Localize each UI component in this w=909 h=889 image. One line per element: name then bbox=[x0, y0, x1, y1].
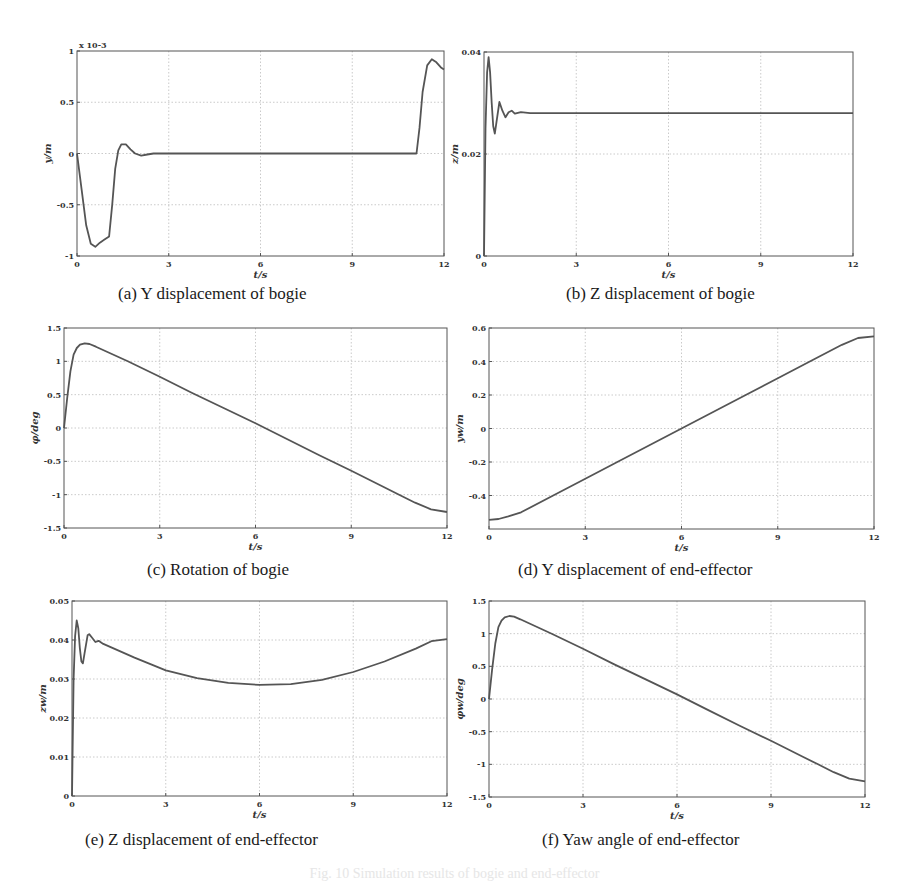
y-tick-label: 1.5 bbox=[472, 596, 486, 606]
caption-e: (e) Z displacement of end-effector bbox=[85, 830, 318, 850]
x-tick-label: 0 bbox=[486, 800, 492, 810]
y-tick-label: 0.5 bbox=[472, 661, 486, 671]
y-tick-label: -0.5 bbox=[469, 727, 486, 737]
y-tick-label: -1.5 bbox=[469, 792, 486, 802]
x-tick-label: 12 bbox=[859, 800, 870, 810]
y-tick-label: 0 bbox=[480, 694, 486, 704]
y-tick-label: -1 bbox=[477, 759, 486, 769]
caption-b: (b) Z displacement of bogie bbox=[566, 284, 755, 304]
x-tick-label: 6 bbox=[674, 800, 680, 810]
x-axis-label: t/s bbox=[670, 810, 684, 821]
caption-a: (a) Y displacement of bogie bbox=[118, 284, 307, 304]
x-tick-label: 3 bbox=[580, 800, 586, 810]
figure-caption: Fig. 10 Simulation results of bogie and … bbox=[0, 866, 909, 882]
y-axis-label: φw/deg bbox=[454, 678, 465, 720]
x-tick-label: 9 bbox=[768, 800, 774, 810]
caption-f: (f) Yaw angle of end-effector bbox=[542, 830, 739, 850]
caption-d: (d) Y displacement of end-effector bbox=[518, 560, 752, 580]
caption-c: (c) Rotation of bogie bbox=[147, 560, 289, 580]
y-tick-label: 1 bbox=[480, 629, 486, 639]
